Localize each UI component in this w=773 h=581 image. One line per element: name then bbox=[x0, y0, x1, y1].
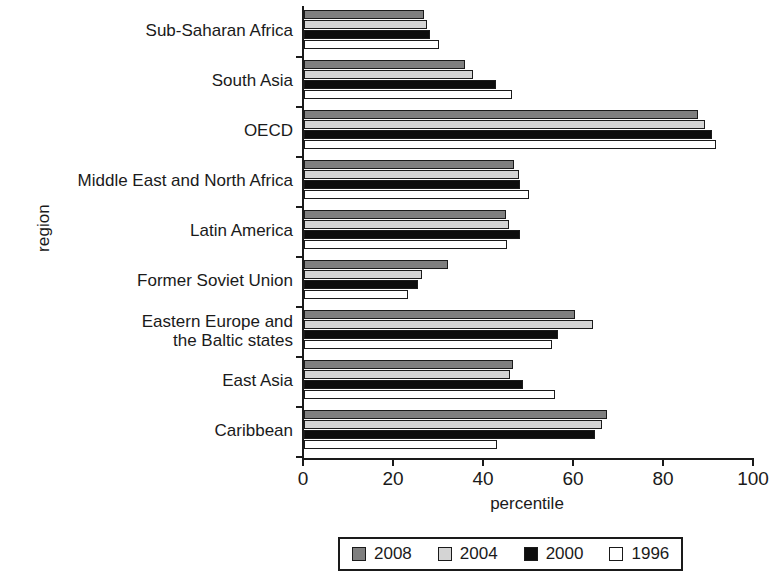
x-axis-line bbox=[302, 458, 752, 460]
bar bbox=[304, 10, 424, 19]
bar bbox=[304, 140, 716, 149]
bar bbox=[304, 270, 422, 279]
x-axis-tick-label: 80 bbox=[633, 468, 693, 490]
x-axis-tick bbox=[482, 458, 484, 466]
y-axis-tick bbox=[296, 106, 304, 108]
bar-group: Former Soviet Union bbox=[304, 256, 752, 306]
x-axis-tick-label: 20 bbox=[363, 468, 423, 490]
bar bbox=[304, 360, 513, 369]
bar bbox=[304, 80, 496, 89]
category-label: Caribbean bbox=[0, 406, 293, 456]
bar-group: Sub-Saharan Africa bbox=[304, 6, 752, 56]
bar bbox=[304, 440, 497, 449]
y-axis-tick bbox=[296, 206, 304, 208]
legend-label: 2004 bbox=[460, 544, 498, 564]
bar bbox=[304, 40, 439, 49]
bar bbox=[304, 130, 712, 139]
legend-label: 1996 bbox=[631, 544, 669, 564]
bar bbox=[304, 260, 448, 269]
bar-group: OECD bbox=[304, 106, 752, 156]
bar bbox=[304, 230, 520, 239]
bar bbox=[304, 330, 558, 339]
category-label: OECD bbox=[0, 106, 293, 156]
legend-swatch bbox=[352, 547, 366, 561]
category-label: Sub-Saharan Africa bbox=[0, 6, 293, 56]
bar bbox=[304, 60, 465, 69]
bar bbox=[304, 240, 507, 249]
legend-swatch bbox=[609, 547, 623, 561]
category-label: East Asia bbox=[0, 356, 293, 406]
bar bbox=[304, 220, 509, 229]
bar-group: Latin America bbox=[304, 206, 752, 256]
bar bbox=[304, 420, 602, 429]
bar bbox=[304, 160, 514, 169]
bar bbox=[304, 340, 552, 349]
legend-entry: 2000 bbox=[524, 544, 584, 564]
category-label: Middle East and North Africa bbox=[0, 156, 293, 206]
x-axis-tick-label: 60 bbox=[543, 468, 603, 490]
bar bbox=[304, 30, 430, 39]
bar-group: Eastern Europe and the Baltic states bbox=[304, 306, 752, 356]
bar bbox=[304, 70, 473, 79]
category-label: Eastern Europe and the Baltic states bbox=[0, 306, 293, 356]
bar bbox=[304, 90, 512, 99]
legend-swatch bbox=[524, 547, 538, 561]
bar bbox=[304, 390, 555, 399]
bar bbox=[304, 290, 408, 299]
y-axis-tick bbox=[296, 156, 304, 158]
x-axis-tick-label: 0 bbox=[273, 468, 333, 490]
legend-label: 2008 bbox=[374, 544, 412, 564]
bar bbox=[304, 110, 698, 119]
bar bbox=[304, 120, 705, 129]
y-axis-tick bbox=[296, 306, 304, 308]
bar bbox=[304, 410, 607, 419]
bar bbox=[304, 190, 529, 199]
bar bbox=[304, 170, 519, 179]
x-axis-tick bbox=[302, 458, 304, 466]
category-label: Former Soviet Union bbox=[0, 256, 293, 306]
chart-legend: 2008200420001996 bbox=[338, 537, 683, 571]
bar-group: East Asia bbox=[304, 356, 752, 406]
x-axis-title: percentile bbox=[302, 494, 752, 514]
bar-group: Caribbean bbox=[304, 406, 752, 456]
bar bbox=[304, 310, 575, 319]
bar bbox=[304, 320, 593, 329]
x-axis-tick bbox=[392, 458, 394, 466]
x-axis-tick-label: 100 bbox=[723, 468, 773, 490]
y-axis-tick bbox=[296, 256, 304, 258]
bar bbox=[304, 370, 510, 379]
bar bbox=[304, 380, 523, 389]
y-axis-tick bbox=[296, 56, 304, 58]
plot-area: Sub-Saharan AfricaSouth AsiaOECDMiddle E… bbox=[302, 6, 752, 458]
category-label: South Asia bbox=[0, 56, 293, 106]
legend-swatch bbox=[438, 547, 452, 561]
bar bbox=[304, 180, 520, 189]
y-axis-tick bbox=[296, 406, 304, 408]
bar-group: Middle East and North Africa bbox=[304, 156, 752, 206]
legend-label: 2000 bbox=[546, 544, 584, 564]
bar-group: South Asia bbox=[304, 56, 752, 106]
category-label: Latin America bbox=[0, 206, 293, 256]
bar bbox=[304, 210, 506, 219]
legend-entry: 2008 bbox=[352, 544, 412, 564]
legend-entry: 2004 bbox=[438, 544, 498, 564]
y-axis-tick bbox=[296, 356, 304, 358]
legend-entry: 1996 bbox=[609, 544, 669, 564]
x-axis-tick bbox=[662, 458, 664, 466]
x-axis-tick bbox=[572, 458, 574, 466]
bar bbox=[304, 20, 427, 29]
bar bbox=[304, 280, 418, 289]
x-axis-tick bbox=[752, 458, 754, 466]
bar bbox=[304, 430, 595, 439]
x-axis-tick-label: 40 bbox=[453, 468, 513, 490]
